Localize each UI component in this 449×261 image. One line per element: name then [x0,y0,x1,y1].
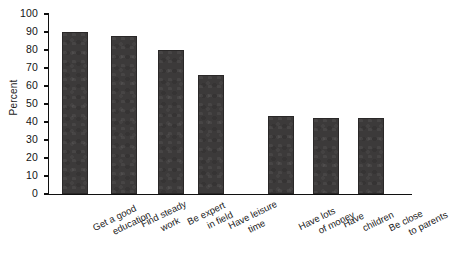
bar [158,50,184,194]
y-tick-label: 50 [0,97,38,109]
bar [198,75,224,194]
y-tick-label: 70 [0,61,38,73]
y-tick-mark [44,31,48,32]
y-tick-mark [44,13,48,14]
bar [313,118,339,195]
y-tick-mark [44,121,48,122]
plot-area: 0102030405060708090100 [48,14,412,194]
y-tick-mark [44,175,48,176]
y-tick-mark [44,157,48,158]
y-tick-mark [44,103,48,104]
x-axis-label: Find steadywork [139,198,193,240]
y-tick-label: 40 [0,115,38,127]
y-tick-mark [44,193,48,194]
bar [62,32,88,194]
bar [358,118,384,194]
y-tick-label: 80 [0,43,38,55]
y-tick-label: 90 [0,25,38,37]
x-axis-category-labels: Get a goodeducationFind steadyworkBe exp… [0,196,420,261]
y-tick-mark [44,139,48,140]
y-tick-label: 30 [0,133,38,145]
y-tick-mark [44,67,48,68]
y-tick-label: 10 [0,169,38,181]
y-tick-label: 20 [0,151,38,163]
bar [268,116,294,194]
x-axis-label: Be expertin field [185,198,234,238]
x-axis-label: Have leisuretime [226,198,284,242]
x-axis-label: Be closeto parents [387,198,449,244]
y-tick-label: 60 [0,79,38,91]
y-tick-mark [44,85,48,86]
y-tick-mark [44,49,48,50]
y-tick-label: 100 [0,7,38,19]
bar [111,36,137,194]
